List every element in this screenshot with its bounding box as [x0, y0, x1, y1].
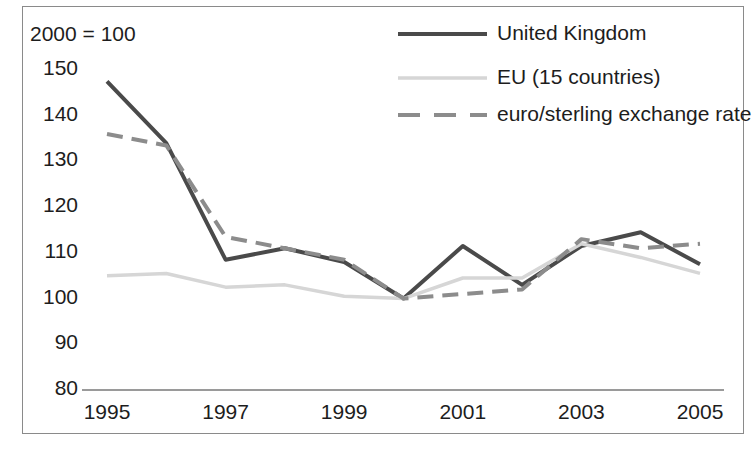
legend-label-2: euro/sterling exchange rate: [497, 102, 752, 126]
series-line-2: [107, 134, 700, 299]
chart-figure: 2000 = 100 8090100110120130140150 199519…: [0, 0, 754, 450]
legend-sample-lines: [398, 34, 487, 115]
legend-label-0: United Kingdom: [497, 21, 646, 45]
series-line-1: [107, 244, 700, 299]
legend-label-1: EU (15 countries): [497, 65, 660, 89]
